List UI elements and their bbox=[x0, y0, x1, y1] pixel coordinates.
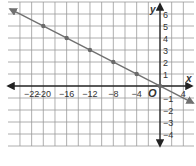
y-tick-label: 1 bbox=[163, 70, 168, 80]
origin-label: O bbox=[148, 87, 157, 99]
coordinate-plane: xyO −22−20−16−12−8−44654321−1−2−3−4 bbox=[0, 0, 196, 166]
y-tick-label: −2 bbox=[163, 106, 173, 116]
data-point bbox=[41, 24, 45, 28]
x-tick-label: −4 bbox=[132, 89, 142, 99]
x-tick-label: −16 bbox=[59, 89, 74, 99]
y-tick-label: 5 bbox=[163, 22, 168, 32]
y-tick-label: 6 bbox=[163, 10, 168, 20]
tick-labels: −22−20−16−12−8−44654321−1−2−3−4 bbox=[24, 10, 186, 140]
y-tick-label: 4 bbox=[163, 34, 168, 44]
data-point bbox=[88, 48, 92, 52]
x-tick-label: −20 bbox=[36, 89, 51, 99]
data-point bbox=[64, 36, 68, 40]
y-tick-label: 2 bbox=[163, 58, 168, 68]
x-axis-label: x bbox=[185, 73, 192, 84]
x-tick-label: −8 bbox=[108, 89, 118, 99]
y-tick-label: −1 bbox=[163, 94, 173, 104]
y-tick-label: −4 bbox=[163, 130, 173, 140]
y-tick-label: 3 bbox=[163, 46, 168, 56]
data-point bbox=[111, 60, 115, 64]
x-tick-label: −12 bbox=[82, 89, 97, 99]
y-axis-label: y bbox=[149, 4, 156, 15]
data-point bbox=[134, 72, 138, 76]
y-tick-label: −3 bbox=[163, 118, 173, 128]
data-point bbox=[158, 84, 162, 88]
